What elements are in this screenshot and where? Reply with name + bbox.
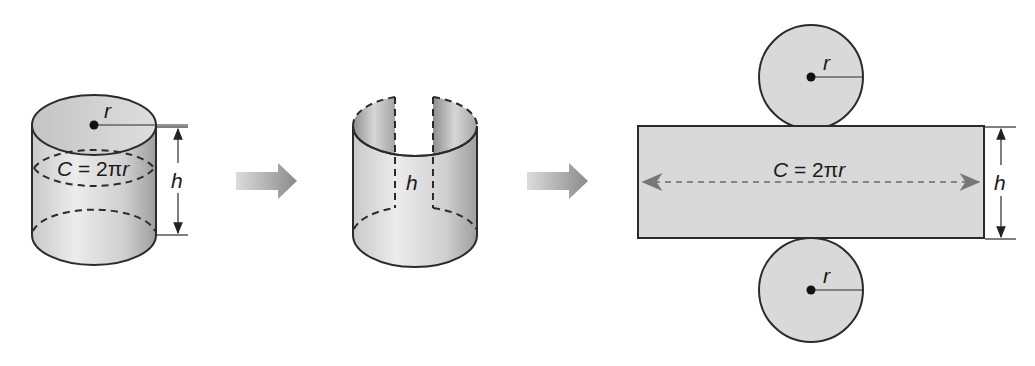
transition-arrow-2 [527, 163, 588, 199]
bottom-center-dot [807, 286, 816, 295]
top-center-dot [807, 73, 816, 82]
cylinder-net-diagram: r C = 2πr h h [0, 0, 1035, 366]
circumference-label: C = 2πr [57, 157, 130, 180]
bottom-radius-label: r [823, 264, 831, 287]
radius-label: r [104, 99, 112, 122]
transition-arrow-1 [236, 163, 297, 199]
height-label: h [171, 169, 183, 192]
cylinder-net: r C = 2πr h r [638, 25, 1016, 342]
top-radius-label: r [823, 51, 831, 74]
circumference-label: C = 2πr [773, 158, 846, 181]
closed-cylinder: r C = 2πr h [32, 95, 188, 265]
height-label: h [406, 171, 418, 194]
center-dot [90, 121, 99, 130]
net-height-label: h [994, 171, 1006, 194]
cut-cylinder: h [353, 97, 477, 267]
